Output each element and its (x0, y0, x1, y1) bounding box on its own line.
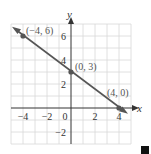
y-tick-label: 2 (61, 79, 66, 90)
point-label-neg4-6: (−4, 6) (26, 25, 53, 37)
point-neg4-6 (20, 33, 25, 38)
end-of-proof-square-icon (141, 146, 149, 154)
x-tick-label: 0 (63, 111, 68, 122)
y-tick-label: −2 (55, 127, 66, 138)
x-axis-label: x (136, 102, 142, 114)
x-tick-label: 4 (117, 111, 122, 122)
point-0-3 (68, 69, 73, 74)
point-label-0-3: (0, 3) (75, 61, 97, 73)
x-tick-label: 2 (93, 111, 98, 122)
y-axis-label: y (66, 8, 72, 20)
y-tick-label: 6 (61, 31, 66, 42)
x-tick-label: −2 (42, 111, 53, 122)
x-tick-label: −4 (18, 111, 29, 122)
y-tick-label: 4 (61, 55, 66, 66)
point-4-0 (116, 105, 121, 110)
point-label-4-0: (4, 0) (107, 87, 129, 99)
coordinate-plane: (−4, 6) (0, 3) (4, 0) x y −4 −2 0 2 4 6 … (0, 0, 151, 154)
